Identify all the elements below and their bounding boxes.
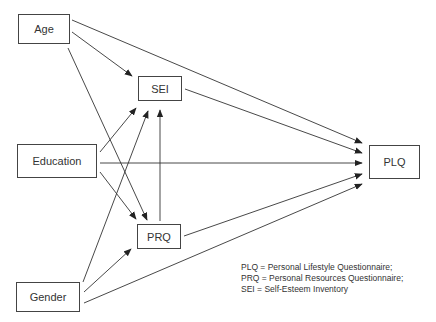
edge-age-to-plq — [72, 20, 362, 143]
node-age: Age — [18, 14, 70, 44]
legend-line-plq: PLQ = Personal Lifestyle Questionnaire; — [241, 262, 403, 273]
edge-sei-to-plq — [185, 89, 362, 153]
node-prq: PRQ — [137, 224, 181, 249]
legend-line-sei: SEI = Self-Esteem Inventory — [241, 284, 403, 295]
legend-line-prq: PRQ = Personal Resources Questionnaire; — [241, 273, 403, 284]
node-label: PLQ — [383, 156, 405, 168]
node-plq: PLQ — [369, 145, 420, 179]
edge-age-to-sei — [72, 32, 132, 76]
node-gender: Gender — [16, 282, 80, 312]
edge-prq-to-plq — [184, 174, 362, 236]
node-label: PRQ — [147, 231, 171, 243]
node-label: SEI — [151, 83, 169, 95]
node-label: Age — [34, 23, 54, 35]
abbreviation-legend: PLQ = Personal Lifestyle Questionnaire; … — [241, 262, 403, 295]
path-diagram: Age SEI Education PRQ Gender PLQ PLQ = P… — [0, 0, 436, 322]
node-education: Education — [17, 144, 97, 178]
edge-gender-to-sei — [83, 111, 148, 282]
node-sei: SEI — [138, 76, 182, 101]
edge-age-to-prq — [68, 48, 147, 220]
edge-education-to-prq — [100, 172, 136, 219]
node-label: Education — [33, 155, 82, 167]
node-label: Gender — [30, 291, 67, 303]
